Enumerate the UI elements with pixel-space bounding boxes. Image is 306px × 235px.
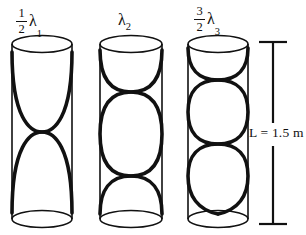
tube-3-top-ellipse xyxy=(188,36,248,53)
tube-3-wavelength-label: 3 2 λ 3 xyxy=(194,5,220,34)
tube-3-numerator: 3 xyxy=(194,5,204,18)
tube-2-wave-a xyxy=(100,50,162,214)
tube-1-lambda-symbol: λ xyxy=(29,13,37,29)
tube-1-lambda-subscript: 1 xyxy=(37,29,42,40)
tube-2-bottom-ellipse xyxy=(100,211,162,228)
tube-1-group xyxy=(12,36,72,228)
tube-1-wavelength-label: 1 2 λ 1 xyxy=(16,7,42,36)
tube-1-denominator: 2 xyxy=(16,23,26,36)
tube-1-numerator: 1 xyxy=(16,7,26,20)
tube-1-fraction: 1 2 xyxy=(16,7,27,36)
length-dimension-label: L = 1.5 m xyxy=(249,126,304,140)
tube-3-group xyxy=(188,36,248,228)
tube-2-wavelength-label: λ 2 xyxy=(117,12,131,28)
tube-2-wave-b xyxy=(100,50,162,214)
tube-2-top-ellipse xyxy=(100,36,162,53)
tube-3-denominator: 2 xyxy=(194,21,204,34)
standing-wave-diagram xyxy=(0,0,306,235)
tube-2-group xyxy=(100,36,162,228)
tube-1-wave-upper xyxy=(12,52,72,132)
figure-canvas: 1 2 λ 1 λ 2 3 2 λ 3 L = 1.5 m xyxy=(0,0,306,235)
tube-2-lambda-symbol: λ xyxy=(118,12,126,28)
tube-3-fraction: 3 2 xyxy=(194,5,205,34)
tube-1-wave-lower xyxy=(12,132,72,213)
tube-2-lambda-subscript: 2 xyxy=(126,22,131,33)
tube-1-bottom-ellipse xyxy=(12,211,72,228)
tube-3-lambda-symbol: λ xyxy=(207,11,215,27)
tube-3-lambda-subscript: 3 xyxy=(215,27,220,38)
